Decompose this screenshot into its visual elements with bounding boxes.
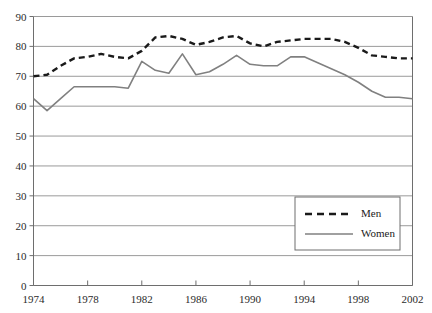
y-tick-label: 30 (16, 190, 28, 202)
y-tick-labels: 0102030405060708090 (16, 11, 28, 292)
chart-canvas: 0102030405060708090 19741978198219861990… (0, 0, 432, 313)
x-tick-label: 1974 (23, 293, 46, 305)
x-tick-label: 1982 (131, 293, 153, 305)
y-tick-label: 90 (16, 11, 28, 23)
line-chart: 0102030405060708090 19741978198219861990… (0, 0, 432, 313)
y-tick-label: 50 (16, 130, 28, 142)
x-tick-label: 1978 (77, 293, 100, 305)
chart-legend: MenWomen (295, 197, 400, 250)
y-tick-label: 40 (16, 160, 28, 172)
y-tick-label: 60 (16, 100, 28, 112)
y-tick-label: 10 (16, 250, 28, 262)
x-tick-label: 1998 (347, 293, 370, 305)
legend-label-women: Women (361, 227, 395, 239)
series-line-men (34, 36, 413, 76)
y-tick-label: 20 (16, 220, 28, 232)
x-tick-label: 1990 (239, 293, 262, 305)
x-tick-label: 2002 (402, 293, 424, 305)
series-line-women (34, 54, 413, 111)
x-tick-label: 1994 (293, 293, 316, 305)
y-tick-label: 70 (16, 70, 28, 82)
x-tick-labels: 19741978198219861990199419982002 (23, 293, 424, 305)
y-tick-label: 0 (21, 280, 27, 292)
y-tick-label: 80 (16, 40, 28, 52)
legend-box (295, 197, 400, 250)
x-tick-label: 1986 (185, 293, 208, 305)
y-axis (30, 17, 34, 286)
data-series (34, 36, 413, 111)
x-axis (34, 281, 413, 286)
legend-label-men: Men (361, 207, 382, 219)
